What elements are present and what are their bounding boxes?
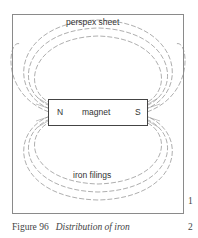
- line-number-1: 1: [188, 196, 193, 206]
- south-pole-label: S: [135, 107, 141, 117]
- figure-number: Figure 96: [12, 222, 49, 232]
- magnet-label: magnet: [82, 107, 110, 117]
- iron-filings-label: iron filings: [73, 170, 111, 180]
- line-number-2: 2: [188, 222, 193, 232]
- figure-caption: Figure 96Distribution of iron: [12, 222, 130, 232]
- perspex-sheet-label: perspex sheet: [66, 17, 119, 27]
- magnet-box: N magnet S: [48, 99, 148, 126]
- figure-title: Distribution of iron: [56, 222, 130, 232]
- north-pole-label: N: [57, 107, 63, 117]
